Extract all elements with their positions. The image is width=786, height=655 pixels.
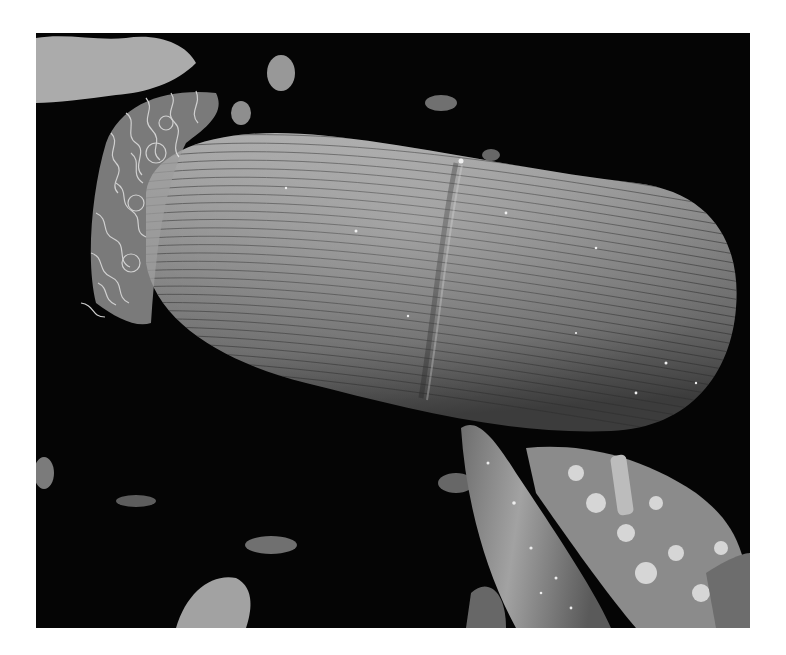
micrograph [36, 33, 750, 628]
micrograph-frame [36, 33, 750, 628]
ciliate-body [136, 133, 746, 445]
